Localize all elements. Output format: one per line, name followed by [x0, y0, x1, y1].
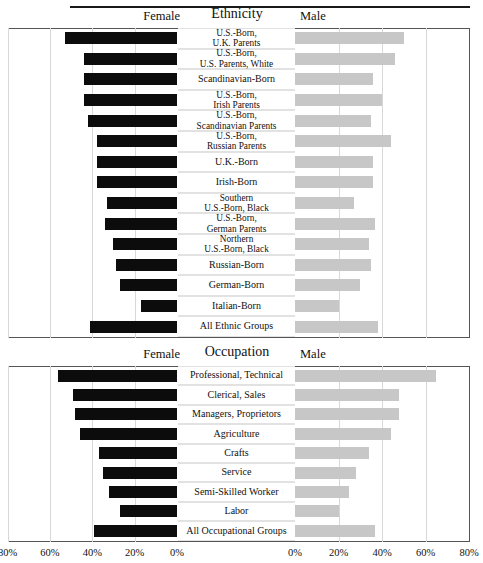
chart-row: All Occupational Groups — [8, 521, 470, 540]
chart-row: German-Born — [8, 275, 470, 296]
chart-row: Labor — [8, 502, 470, 521]
chart-row: U.S.-Born,German Parents — [8, 213, 470, 234]
male-bar — [295, 218, 375, 230]
female-bar — [105, 218, 177, 230]
axis-tick-right-40-r: 40% — [362, 546, 402, 560]
chart-row: Russian-Born — [8, 255, 470, 276]
male-bar — [295, 389, 399, 401]
male-bar — [295, 300, 339, 312]
chart-row: Italian-Born — [8, 296, 470, 317]
row-label: U.S.-Born,U.K. Parents — [178, 28, 295, 49]
male-bar — [295, 156, 373, 168]
chart1-header-female: Female — [100, 8, 180, 24]
male-bar — [295, 176, 373, 188]
row-label: U.S.-Born,U.S. Parents, White — [178, 49, 295, 70]
female-bar — [109, 486, 177, 498]
chart-row: Managers, Proprietors — [8, 405, 470, 424]
chart1-header-title: Ethnicity — [178, 6, 296, 22]
row-label: All Occupational Groups — [178, 521, 295, 540]
chart-row: Clerical, Sales — [8, 385, 470, 404]
male-bar — [295, 135, 391, 147]
chart2-header-male: Male — [300, 346, 380, 362]
female-bar — [141, 300, 177, 312]
row-label: SouthernU.S.-Born, Black — [178, 193, 295, 214]
male-bar — [295, 238, 369, 250]
row-label: Managers, Proprietors — [178, 405, 295, 424]
female-bar — [120, 505, 177, 517]
female-bar — [120, 279, 177, 291]
female-bar — [116, 259, 177, 271]
row-label: Professional, Technical — [178, 366, 295, 385]
male-bar — [295, 32, 404, 44]
row-label: U.S.-Born,Scandinavian Parents — [178, 110, 295, 131]
male-bar — [295, 486, 349, 498]
male-bar — [295, 447, 369, 459]
row-label: U.S.-Born,German Parents — [178, 213, 295, 234]
axis-tick-left-40: 40% — [72, 546, 112, 560]
row-label: U.S.-Born,Irish Parents — [178, 90, 295, 111]
chart-row: Service — [8, 463, 470, 482]
chart2-header-title: Occupation — [178, 344, 296, 360]
female-bar — [97, 135, 177, 147]
chart2-header-female: Female — [100, 346, 180, 362]
female-bar — [73, 389, 177, 401]
female-bar — [90, 321, 177, 333]
female-bar — [113, 238, 177, 250]
chart-row: U.S.-Born,Russian Parents — [8, 131, 470, 152]
male-bar — [295, 115, 371, 127]
female-bar — [97, 176, 177, 188]
chart-row: U.S.-Born,U.K. Parents — [8, 28, 470, 49]
occupation-chart-panel: Professional, TechnicalClerical, SalesMa… — [8, 366, 470, 542]
male-bar — [295, 428, 391, 440]
chart-row: All Ethnic Groups — [8, 316, 470, 337]
male-bar — [295, 505, 339, 517]
row-label: Service — [178, 463, 295, 482]
female-bar — [88, 115, 177, 127]
female-bar — [80, 428, 177, 440]
axis-tick-left-0: 0% — [157, 546, 197, 560]
row-label: Irish-Born — [178, 172, 295, 193]
female-bar — [84, 53, 177, 65]
chart-row: U.S.-Born,Irish Parents — [8, 90, 470, 111]
axis-tick-right-80-r: 80% — [449, 546, 483, 560]
row-label: Semi-Skilled Worker — [178, 482, 295, 501]
female-bar — [58, 370, 177, 382]
female-bar — [94, 525, 177, 537]
chart1-header-male: Male — [300, 8, 380, 24]
row-label: German-Born — [178, 275, 295, 296]
male-bar — [295, 467, 356, 479]
axis-tick-left-80: 80% — [0, 546, 28, 560]
row-label: Crafts — [178, 444, 295, 463]
row-label: U.K.-Born — [178, 152, 295, 173]
male-bar — [295, 197, 354, 209]
female-bar — [103, 467, 177, 479]
row-label: Russian-Born — [178, 255, 295, 276]
chart-row: SouthernU.S.-Born, Black — [8, 193, 470, 214]
male-bar — [295, 321, 378, 333]
chart-row: U.K.-Born — [8, 152, 470, 173]
ethnicity-chart-panel: U.S.-Born,U.K. ParentsU.S.-Born,U.S. Par… — [8, 28, 470, 338]
female-bar — [75, 408, 177, 420]
chart-row: U.S.-Born,Scandinavian Parents — [8, 110, 470, 131]
male-bar — [295, 53, 395, 65]
axis-tick-right-20-r: 20% — [319, 546, 359, 560]
chart-row: Professional, Technical — [8, 366, 470, 385]
row-label: U.S.-Born,Russian Parents — [178, 131, 295, 152]
male-bar — [295, 370, 436, 382]
chart-row: Irish-Born — [8, 172, 470, 193]
axis-tick-right-60-r: 60% — [406, 546, 446, 560]
axis-tick-left-20: 20% — [115, 546, 155, 560]
male-bar — [295, 94, 382, 106]
female-bar — [107, 197, 177, 209]
row-label: All Ethnic Groups — [178, 316, 295, 337]
row-label: Agriculture — [178, 424, 295, 443]
male-bar — [295, 408, 399, 420]
row-label: Clerical, Sales — [178, 385, 295, 404]
row-label: Scandinavian-Born — [178, 69, 295, 90]
row-label: Labor — [178, 502, 295, 521]
female-bar — [84, 73, 177, 85]
female-bar — [99, 447, 177, 459]
male-bar — [295, 259, 371, 271]
female-bar — [84, 94, 177, 106]
axis-tick-labels: 80%60%40%20%0%0%20%40%60%80% — [0, 546, 478, 560]
